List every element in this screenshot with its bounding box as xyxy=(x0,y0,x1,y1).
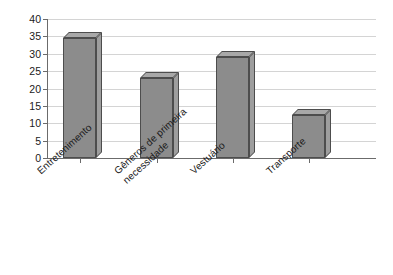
y-axis-tick-label: 30 xyxy=(1,49,41,60)
x-axis-tick xyxy=(309,159,310,163)
bar-side-face xyxy=(325,109,331,158)
bar-side-face xyxy=(96,32,102,158)
y-axis-tick-label: 40 xyxy=(1,14,41,25)
y-axis-tick-label: 0 xyxy=(1,153,41,164)
y-axis-tick-label: 15 xyxy=(1,101,41,112)
y-axis-tick-label: 10 xyxy=(1,118,41,129)
y-axis-tick-label: 5 xyxy=(1,136,41,147)
y-axis-tick-label: 25 xyxy=(1,66,41,77)
gridline xyxy=(48,19,376,20)
y-axis-tick-label: 20 xyxy=(1,84,41,95)
bar-chart: 0510152025303540 EntretenimentoGêneros d… xyxy=(0,0,393,275)
bar-side-face xyxy=(249,51,255,158)
x-axis-tick xyxy=(80,159,81,163)
y-axis-tick-label: 35 xyxy=(1,31,41,42)
y-axis-line xyxy=(47,19,48,159)
x-axis-tick xyxy=(233,159,234,163)
